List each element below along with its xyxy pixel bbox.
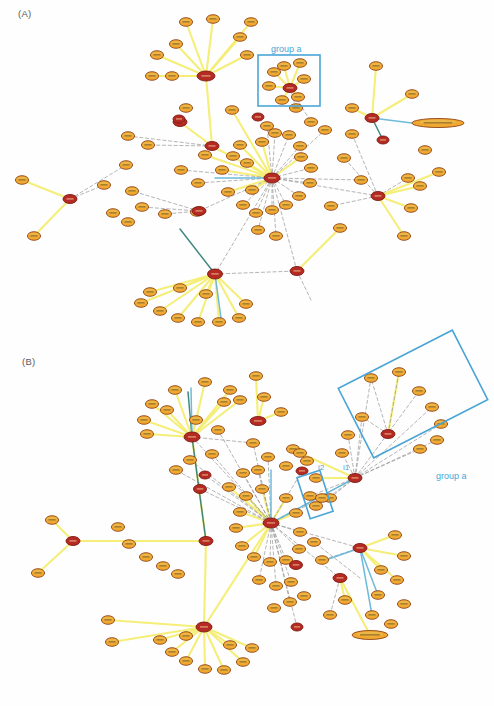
graph-node-label-mark	[224, 191, 231, 193]
graph-hub-label-mark	[337, 577, 344, 578]
graph-edge	[192, 437, 253, 443]
graph-node-label-mark	[182, 635, 189, 637]
graph-node-label-mark	[174, 573, 181, 575]
graph-hub-label-mark	[254, 420, 262, 421]
graph-node-label-mark	[174, 317, 181, 319]
graph-node-label-mark	[338, 452, 345, 454]
graph-hub-label-mark	[196, 210, 203, 211]
graph-node-label-mark	[300, 595, 307, 597]
graph-node-label-mark	[163, 409, 170, 411]
graph-edge	[199, 178, 272, 211]
graph-node-label-mark	[201, 668, 208, 670]
graph-hub-label-mark	[70, 540, 77, 541]
graph-node-label-mark	[247, 21, 254, 23]
graph-node-label-mark	[142, 556, 149, 558]
graph-node-label-mark	[282, 465, 289, 467]
graph-node-label-mark	[148, 75, 155, 77]
group-a-box-panel-a-label: group a	[271, 44, 302, 54]
graph-node-label-mark	[307, 167, 314, 169]
graph-node-label-mark	[242, 303, 249, 305]
graph-node-label-mark	[282, 204, 289, 206]
graph-edge	[191, 388, 192, 437]
graph-node-label-mark	[400, 555, 407, 557]
graph-edge	[148, 145, 212, 146]
graph-node-label-mark	[270, 607, 277, 609]
graph-node-label-mark	[161, 213, 168, 215]
graph-node-label-mark	[208, 453, 215, 455]
graph-hub-label-mark	[200, 626, 208, 627]
graph-node-label-mark	[143, 433, 150, 435]
graph-node-label-mark	[192, 419, 199, 421]
graph-edge	[22, 180, 70, 199]
graph-node-label-mark	[424, 122, 453, 124]
graph-node-label-mark	[296, 452, 303, 454]
graph-node-label-mark	[172, 43, 179, 45]
graph-edge	[200, 489, 271, 523]
graph-hub-label-mark	[294, 270, 301, 271]
graph-node-label-mark	[327, 205, 334, 207]
graph-edge	[215, 274, 246, 304]
graph-node-label-mark	[258, 141, 265, 143]
graph-node-label-mark	[252, 212, 259, 214]
graph-node-label-mark	[391, 534, 398, 536]
graph-edge	[355, 449, 420, 478]
graph-node-label-mark	[428, 406, 435, 408]
graph-node-label-mark	[140, 419, 147, 421]
graph-node-label-mark	[124, 221, 131, 223]
graph-node-label-mark	[297, 156, 304, 158]
graph-edge	[352, 134, 378, 196]
graph-hub-label-mark	[375, 195, 382, 196]
graph-hub-label-mark	[293, 564, 300, 565]
graph-node-label-mark	[182, 107, 189, 109]
graph-node-label-mark	[176, 287, 183, 289]
graph-node-label-mark	[225, 486, 232, 488]
graph-node-label-mark	[295, 548, 302, 550]
graph-edge	[371, 378, 388, 434]
graph-node-label-mark	[252, 375, 259, 377]
panel-b-nodes	[31, 368, 447, 675]
graph-node-label-mark	[306, 182, 313, 184]
graph-node-label-mark	[372, 65, 379, 67]
graph-hub-label-mark	[202, 75, 211, 76]
graph-node-label-mark	[400, 603, 407, 605]
graph-node-label-mark	[220, 401, 227, 403]
graph-node-label-mark	[255, 579, 262, 581]
graph-node-label-mark	[395, 371, 402, 373]
graph-edge	[204, 627, 205, 669]
i2-box-panel-b-label: i2	[318, 463, 325, 472]
graph-node-label-mark	[168, 651, 175, 653]
graph-node-label-mark	[215, 321, 222, 323]
graph-node-label-mark	[435, 171, 442, 173]
graph-node-label-mark	[201, 154, 208, 156]
graph-node-label-mark	[387, 623, 394, 625]
graph-edge	[192, 437, 271, 523]
graph-node-label-mark	[303, 460, 310, 462]
graph-node-label-mark	[404, 177, 411, 179]
graph-hub-label-mark	[203, 540, 210, 541]
graph-node-label-mark	[18, 179, 25, 181]
graph-node-label-mark	[159, 565, 166, 567]
graph-node-label-mark	[242, 495, 249, 497]
graph-edge	[355, 378, 371, 478]
graph-hub-label-mark	[211, 273, 219, 274]
graph-node-label-mark	[357, 179, 364, 181]
graph-node-label-mark	[236, 36, 243, 38]
graph-node-label-mark	[148, 403, 155, 405]
graph-edge	[206, 22, 251, 76]
i1-marker-panel-b-label: i1	[343, 463, 350, 472]
graph-hub-label-mark	[369, 117, 376, 118]
graph-node-label-mark	[100, 184, 107, 186]
graph-node-label-mark	[312, 477, 319, 479]
graph-node-label-mark	[344, 434, 351, 436]
graph-node-label-mark	[307, 121, 314, 123]
graph-node-label-mark	[128, 190, 135, 192]
graph-node-label-mark	[243, 54, 250, 56]
graph-node-label-mark	[114, 526, 121, 528]
graph-node-label-mark	[272, 235, 279, 237]
graph-edge	[204, 523, 271, 627]
group-a-box-panel-b[interactable]	[338, 330, 487, 458]
graph-node-label-mark	[336, 227, 343, 229]
graph-node-label-mark	[318, 559, 325, 561]
graph-node-label-mark	[433, 439, 440, 441]
graph-edge	[176, 470, 271, 523]
